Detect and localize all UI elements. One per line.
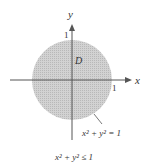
boundary-equation: x² + y² = 1 bbox=[81, 128, 121, 138]
region-label: D bbox=[74, 55, 83, 66]
x-axis-label: x bbox=[134, 74, 140, 86]
x-axis-arrow-icon bbox=[125, 77, 132, 83]
y-tick-label: 1 bbox=[64, 30, 69, 40]
y-axis-arrow-icon bbox=[69, 24, 75, 31]
boundary-leader-line bbox=[94, 114, 102, 124]
region-inequality-caption: x² + y² ≤ 1 bbox=[54, 152, 93, 162]
y-axis-label: y bbox=[67, 8, 73, 20]
x-tick-label: 1 bbox=[112, 83, 117, 93]
unit-disk-diagram: x y 1 1 D x² + y² = 1 x² + y² ≤ 1 bbox=[0, 0, 148, 168]
